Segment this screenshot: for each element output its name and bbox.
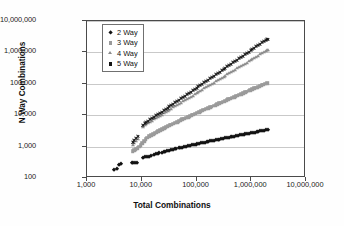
data-point-2-way bbox=[135, 160, 140, 165]
legend-item-4-way[interactable]: 4 Way bbox=[106, 48, 138, 59]
data-point-5-way bbox=[136, 134, 140, 138]
y-tick-label: 10,000 bbox=[14, 109, 36, 118]
y-tick-label: 100 bbox=[24, 172, 36, 181]
legend-marker-glyph bbox=[108, 51, 112, 54]
x-axis-title: Total Combinations bbox=[0, 200, 344, 210]
data-point-4-way bbox=[266, 48, 270, 51]
y-tick-label: 1,000,000 bbox=[4, 46, 36, 55]
data-point-3-way bbox=[265, 81, 269, 85]
legend-label: 4 Way bbox=[117, 49, 138, 58]
y-tick-label: 1,000 bbox=[18, 141, 36, 150]
x-tick-label: 1,000 bbox=[77, 180, 96, 189]
legend-marker-icon bbox=[106, 28, 115, 37]
data-point-5-way bbox=[265, 37, 269, 41]
chart-legend: 2 Way3 Way4 Way5 Way bbox=[102, 24, 144, 72]
y-tick-label: 10,000,000 bbox=[0, 15, 36, 24]
x-tick-label: 10,000,000 bbox=[287, 180, 324, 189]
legend-marker-icon bbox=[106, 49, 115, 58]
y-tick-label: 100,000 bbox=[10, 78, 36, 87]
chart-figure: N Way Combinations Total Combinations 10… bbox=[0, 0, 344, 226]
legend-item-5-way[interactable]: 5 Way bbox=[106, 59, 138, 70]
x-tick-label: 1,000,000 bbox=[234, 180, 267, 189]
legend-item-2-way[interactable]: 2 Way bbox=[106, 27, 138, 38]
legend-marker-icon bbox=[106, 59, 115, 68]
legend-label: 2 Way bbox=[117, 28, 138, 37]
legend-marker-glyph bbox=[108, 30, 113, 35]
legend-label: 5 Way bbox=[117, 59, 138, 68]
legend-marker-glyph bbox=[109, 62, 113, 66]
gridline-y bbox=[87, 21, 304, 22]
legend-marker-icon bbox=[106, 38, 115, 47]
x-tick-label: 10,000 bbox=[129, 180, 152, 189]
legend-label: 3 Way bbox=[117, 38, 138, 47]
x-tick-label: 100,000 bbox=[182, 180, 209, 189]
legend-marker-glyph bbox=[109, 41, 113, 45]
legend-item-3-way[interactable]: 3 Way bbox=[106, 38, 138, 49]
